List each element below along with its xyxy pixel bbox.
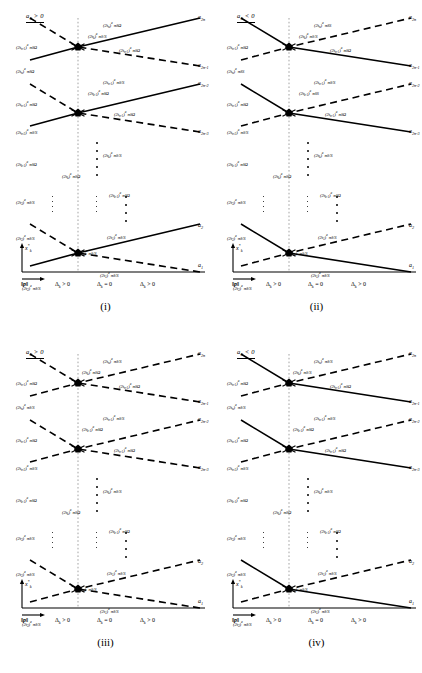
- ellipsis-dots: [307, 142, 309, 181]
- formula-label: (2tk)a πδ/S: [88, 33, 106, 41]
- formula-label: (2tn-1)a πδΩ: [227, 437, 248, 445]
- formula-label: (2tk-1)a πδΩ: [16, 161, 37, 169]
- curve-label-2n: a2n: [409, 14, 416, 22]
- panel-i: a0 > 0 x*k ‖p‖ a2na2n-1a2n-2a2n-3a2a1(2t…: [0, 0, 211, 337]
- formula-label: (2t2)a πδ/S: [227, 571, 246, 579]
- region-label-1: Δk = 0: [97, 281, 112, 289]
- formula-label: (2tn-2)a πδ/S: [227, 129, 248, 137]
- formula-label: (2tn-2)a πδ/S: [227, 465, 248, 473]
- formula-label: (2tn-1)a πδΩ: [114, 447, 135, 455]
- formula-label: (2tn-1)a πδ/S: [314, 415, 335, 423]
- panel-plot: a0 > 0 x*k ‖p‖ a2na2n-1a2n-2a2n-3a2a1(2t…: [0, 336, 211, 636]
- ellipsis-dots: [52, 532, 53, 552]
- curve-label-2n-3: a2n-3: [198, 128, 209, 136]
- formula-label: (2tn-1)a πδΩ: [325, 111, 346, 119]
- ellipsis-dots: [336, 196, 338, 228]
- curve-label-2n-1: a2n-1: [409, 398, 420, 406]
- formula-label: (2tn-1)a πδΩ: [16, 437, 37, 445]
- formula-label: (2tk)a πδΩ: [62, 173, 80, 181]
- formula-label: (2tn)a πδ/S: [16, 404, 35, 412]
- formula-label: (2t1)a πδ/S: [100, 608, 119, 616]
- formula-label: (2tk-1)a πδΩ: [16, 497, 37, 505]
- formula-label: (2tk)a πδΩ: [62, 509, 80, 517]
- formula-label: (2tn-1)a πδΩ: [330, 47, 351, 55]
- formula-label: (2tn-1)a πδΩ: [330, 383, 351, 391]
- region-label-2: Δk > 0: [140, 617, 155, 625]
- formula-label: (2t2)a πδ/S: [16, 571, 35, 579]
- formula-label: (2tk)a πδ/S: [289, 250, 307, 258]
- formula-label: (2tk)a πδ/S: [314, 488, 332, 496]
- ellipsis-dots: [96, 478, 98, 517]
- y-axis-label: x*k: [236, 579, 243, 589]
- region-label-2: Δk > 0: [351, 617, 366, 625]
- panel-plot: a0 < 0 x*k ‖p‖ a2na2n-1a2n-2a2n-3a2a1(2t…: [211, 0, 422, 300]
- curve-label-2: a2: [198, 222, 203, 230]
- formula-label: (2tn-1)a πδ/S: [314, 79, 335, 87]
- formula-label: (2tn)a πδS: [314, 22, 331, 30]
- curve-label-2n-3: a2n-3: [409, 464, 420, 472]
- panel-iii: a0 > 0 x*k ‖p‖ a2na2n-1a2n-2a2n-3a2a1(2t…: [0, 336, 211, 673]
- formula-label: (2t3)a πδ/S: [16, 199, 35, 207]
- formula-label: (2t2)a πδ/S: [233, 621, 252, 629]
- curve-label-2n-2: a2n-2: [198, 80, 209, 88]
- curve-label-1: a1: [409, 262, 414, 270]
- formula-label: (2tk)a πδ/S: [289, 586, 307, 594]
- region-label-1: Δk = 0: [308, 617, 323, 625]
- formula-label: (2tk)a πδΩ: [273, 173, 291, 181]
- formula-label: (2t1)a πδ/S: [100, 272, 119, 280]
- curve-label-2n-2: a2n-2: [198, 416, 209, 424]
- curve-label-2n: a2n: [409, 350, 416, 358]
- ellipsis-dots: [307, 196, 308, 216]
- formula-label: (2t1)a πδ/S: [318, 234, 337, 242]
- figure-sheet: a0 > 0 x*k ‖p‖ a2na2n-1a2n-2a2n-3a2a1(2t…: [0, 0, 422, 673]
- panel-condition: a0 > 0: [26, 12, 44, 23]
- formula-label: (2t3)a πδ/S: [227, 535, 246, 543]
- ellipsis-dots: [307, 532, 308, 552]
- curve-label-2: a2: [409, 222, 414, 230]
- formula-label: (2t2)a πδ/S: [233, 285, 252, 293]
- panel-name: (iii): [0, 636, 211, 648]
- curve-label-2n-3: a2n-3: [409, 128, 420, 136]
- panel-ii: a0 < 0 x*k ‖p‖ a2na2n-1a2n-2a2n-3a2a1(2t…: [211, 0, 422, 337]
- curve-label-2n: a2n: [198, 14, 205, 22]
- ellipsis-dots: [96, 142, 98, 181]
- ellipsis-dots: [125, 532, 127, 564]
- formula-label: (2t3)a πδ/S: [16, 535, 35, 543]
- y-axis-label: x*k: [25, 243, 32, 253]
- formula-label: (2tk)a πδ/S: [103, 152, 121, 160]
- formula-label: (2t1)a πδ/S: [311, 272, 330, 280]
- curve-label-1: a1: [409, 598, 414, 606]
- curve-label-1: a1: [198, 262, 203, 270]
- curve-label-2n-1: a2n-1: [409, 62, 420, 70]
- curve-label-2: a2: [409, 558, 414, 566]
- formula-label: (2tk-1)a πδΩ: [82, 426, 103, 434]
- region-label-0: Δk > 0: [266, 617, 281, 625]
- formula-label: (2tn-1)a πδΩ: [227, 101, 248, 109]
- formula-label: (2t3)a πδ/S: [227, 199, 246, 207]
- formula-label: (2tn-1)a πδΩ: [325, 447, 346, 455]
- panel-plot: a0 < 0 x*k ‖p‖ a2na2n-1a2n-2a2n-3a2a1(2t…: [211, 336, 422, 636]
- formula-label: (2tk-1)a πδS: [299, 90, 319, 98]
- formula-label: (2t1)a πδ/S: [107, 570, 126, 578]
- curve-label-2n-3: a2n-3: [198, 464, 209, 472]
- ellipsis-dots: [336, 532, 338, 564]
- panel-plot: a0 > 0 x*k ‖p‖ a2na2n-1a2n-2a2n-3a2a1(2t…: [0, 0, 211, 300]
- formula-label: (2tk)a πδ/S: [78, 250, 96, 258]
- region-label-0: Δk > 0: [55, 617, 70, 625]
- formula-label: (2t1)a πδ/S: [318, 570, 337, 578]
- curve-label-2n: a2n: [198, 350, 205, 358]
- ellipsis-dots: [125, 196, 127, 228]
- formula-label: (2tk)a πδ/S: [103, 488, 121, 496]
- panel-name: (ii): [211, 300, 422, 312]
- formula-label: (2t2)a πδ/S: [22, 285, 41, 293]
- ellipsis-dots: [96, 532, 97, 552]
- formula-label: (2tk)a πδ/S: [78, 586, 96, 594]
- curve-label-2n-1: a2n-1: [198, 62, 209, 70]
- curve-label-2n-2: a2n-2: [409, 80, 420, 88]
- formula-label: (2t2)a πδ/S: [22, 621, 41, 629]
- formula-label: (2tk)a πδΩ: [273, 509, 291, 517]
- curve-label-1: a1: [198, 598, 203, 606]
- formula-label: (2tk)a πδ/S: [293, 369, 311, 377]
- curve-label-2n-2: a2n-2: [409, 416, 420, 424]
- formula-label: (2tn-2)a πδ/S: [16, 129, 37, 137]
